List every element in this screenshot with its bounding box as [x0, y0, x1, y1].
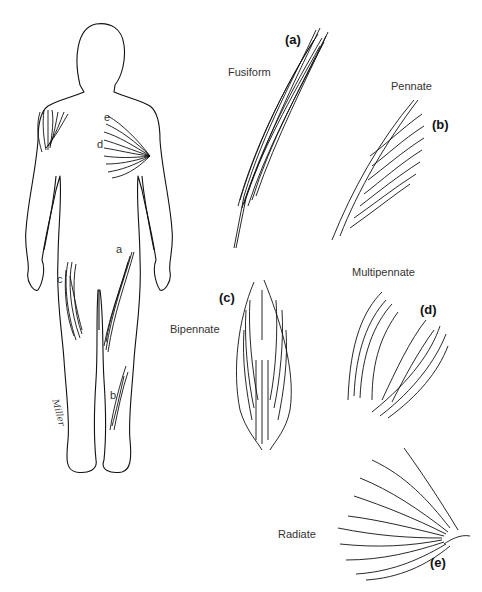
marker-c: c: [57, 273, 63, 285]
tag-c: (c): [219, 290, 235, 305]
tag-d: (d): [420, 302, 437, 317]
marker-b: b: [110, 389, 116, 401]
fusiform-muscle-drawing: [234, 28, 328, 248]
body-outline: [26, 24, 173, 473]
body-muscle-e: [104, 116, 150, 178]
label-pennate: Pennate: [391, 80, 432, 92]
label-radiate: Radiate: [278, 528, 316, 540]
label-multipennate: Multipennate: [352, 266, 415, 278]
body-muscle-c: [65, 262, 82, 340]
body-muscle-d: [38, 110, 68, 152]
marker-e: e: [104, 111, 110, 123]
radiate-muscle-drawing: [338, 448, 470, 580]
marker-a: a: [116, 243, 122, 255]
label-bipennate: Bipennate: [170, 323, 220, 335]
tag-b: (b): [432, 117, 449, 132]
tag-e: (e): [430, 555, 446, 570]
label-fusiform: Fusiform: [228, 66, 271, 78]
marker-d: d: [97, 138, 103, 150]
bipennate-muscle-drawing: [236, 280, 291, 450]
tag-a: (a): [285, 32, 301, 47]
pennate-muscle-drawing: [332, 100, 424, 240]
body-muscle-a: [104, 252, 134, 352]
